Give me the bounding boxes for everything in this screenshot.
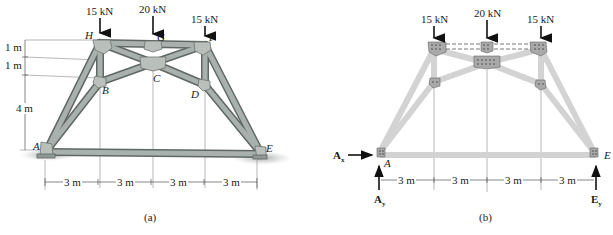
dim-label-b-3: 3 m bbox=[504, 175, 523, 186]
node-label-e: E bbox=[266, 143, 273, 154]
load-label-b-g: 20 kN bbox=[474, 8, 501, 19]
node-label-h: H bbox=[85, 30, 93, 41]
dim-label-1m-mid: 1 m bbox=[5, 60, 22, 71]
truss-figure: 15 kN 20 kN 15 kN H G F C B D A E 1 m 1 … bbox=[0, 0, 613, 235]
dim-label-a-3: 3 m bbox=[169, 177, 188, 188]
reaction-label-ax: Ax bbox=[333, 150, 344, 164]
load-label-b-f: 15 kN bbox=[527, 14, 554, 25]
dim-label-4m: 4 m bbox=[16, 103, 33, 114]
dim-label-a-4: 3 m bbox=[222, 177, 241, 188]
dim-label-1m-top: 1 m bbox=[5, 42, 22, 53]
node-label-c: C bbox=[153, 73, 160, 84]
dim-label-b-4: 3 m bbox=[558, 175, 577, 186]
node-label-b-e: E bbox=[604, 150, 611, 161]
dim-label-a-2: 3 m bbox=[116, 177, 135, 188]
reaction-label-ay: Ay bbox=[374, 194, 385, 208]
node-label-b-a: A bbox=[384, 158, 391, 169]
load-label-g: 20 kN bbox=[139, 4, 166, 15]
load-label-f: 15 kN bbox=[191, 14, 218, 25]
node-label-a: A bbox=[33, 141, 40, 152]
load-label-h: 15 kN bbox=[86, 6, 113, 17]
caption-a: (a) bbox=[144, 211, 156, 223]
dim-label-a-1: 3 m bbox=[63, 177, 82, 188]
node-label-b: B bbox=[102, 85, 109, 96]
node-label-f: F bbox=[209, 32, 216, 43]
load-label-b-h: 15 kN bbox=[421, 14, 448, 25]
reaction-label-ey: Ey bbox=[591, 194, 602, 208]
node-label-g: G bbox=[157, 32, 165, 43]
dim-label-b-2: 3 m bbox=[451, 175, 470, 186]
dim-label-b-1: 3 m bbox=[397, 175, 416, 186]
figure-a-truss bbox=[20, 16, 292, 190]
caption-b: (b) bbox=[479, 211, 492, 223]
node-label-d: D bbox=[191, 89, 199, 100]
